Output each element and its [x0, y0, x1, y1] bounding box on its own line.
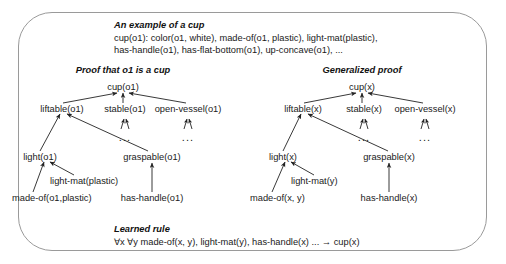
right-tree-heading: Generalized proof: [322, 65, 401, 76]
left-node-light: light(o1): [23, 152, 57, 163]
right-node-open-vessel: open-vessel(x): [395, 104, 456, 115]
right-node-light: light(x): [269, 152, 297, 163]
right-node-made-of: made-of(x, y): [250, 193, 305, 204]
learned-rule-text: ∀x ∀y made-of(x, y), light-mat(y), has-h…: [114, 236, 360, 248]
left-ellipsis-stable: ...: [119, 133, 131, 142]
left-node-has-handle: has-handle(o1): [121, 193, 184, 204]
example-block-title: An example of a cup: [114, 20, 204, 30]
right-node-has-handle: has-handle(x): [361, 193, 418, 204]
left-node-made-of: made-of(o1,plastic): [12, 193, 92, 204]
left-tree-heading: Proof that o1 is a cup: [76, 65, 171, 76]
right-node-liftable: liftable(x): [284, 104, 322, 115]
example-block-line-1: cup(o1): color(o1, white), made-of(o1, p…: [114, 32, 378, 44]
left-node-open-vessel: open-vessel(o1): [155, 104, 222, 115]
learned-rule-title: Learned rule: [114, 224, 170, 234]
right-node-light-mat: light-mat(y): [291, 176, 338, 187]
right-node-stable: stable(x): [346, 104, 382, 115]
right-ellipsis-open-vessel: ...: [419, 133, 431, 142]
left-node-cup: cup(o1): [107, 82, 139, 93]
right-node-cup: cup(x): [349, 82, 375, 93]
example-block-line-2: has-handle(o1), has-flat-bottom(o1), up-…: [114, 44, 343, 56]
right-node-graspable: graspable(x): [363, 152, 415, 163]
left-node-stable: stable(o1): [104, 104, 145, 115]
left-node-graspable: graspable(o1): [123, 152, 180, 163]
left-node-liftable: liftable(o1): [40, 104, 83, 115]
left-node-light-mat: light-mat(plastic): [50, 176, 118, 187]
left-ellipsis-open-vessel: ...: [182, 133, 194, 142]
right-ellipsis-stable: ...: [358, 133, 370, 142]
